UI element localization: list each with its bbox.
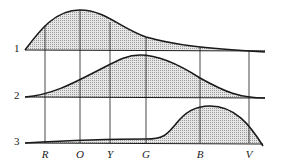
band-label-g: G [142, 148, 150, 160]
curve-1-area [25, 10, 265, 52]
row-label-2: 2 [14, 89, 20, 101]
baseline-3 [25, 143, 263, 144]
band-label-r: R [42, 148, 49, 160]
row-label-1: 1 [14, 42, 20, 54]
band-label-b: B [197, 148, 204, 160]
band-label-y: Y [107, 148, 113, 160]
band-label-o: O [76, 148, 84, 160]
baseline-2 [25, 97, 265, 98]
row-label-3: 3 [14, 135, 20, 147]
band-label-v: V [246, 148, 253, 160]
curve-3-area [25, 106, 263, 146]
diagram-canvas [0, 0, 281, 167]
spectral-distribution-diagram: 1 2 3 R O Y G B V [0, 0, 281, 167]
